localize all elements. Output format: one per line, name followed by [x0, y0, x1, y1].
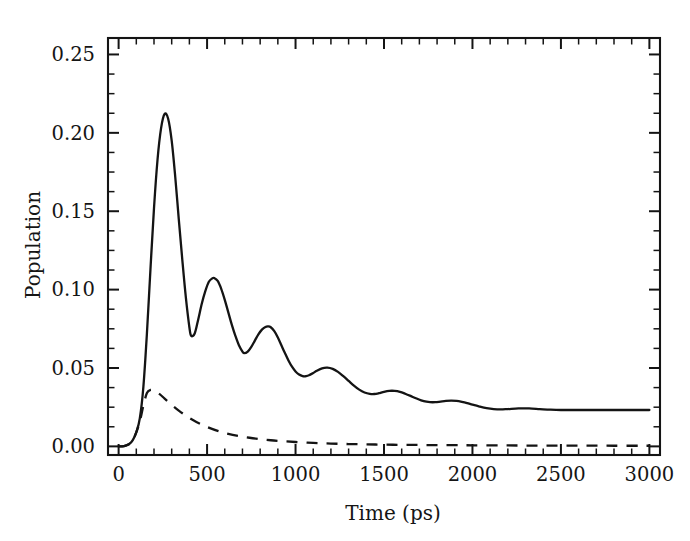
y-axis-tick-labels: 0.000.050.100.150.200.25 — [52, 43, 95, 458]
x-tick-label: 3000 — [625, 463, 675, 486]
y-tick-label: 0.25 — [52, 43, 95, 66]
y-tick-label: 0.15 — [52, 200, 95, 223]
x-tick-label: 1000 — [271, 463, 321, 486]
y-tick-label: 0.20 — [52, 122, 95, 145]
population-vs-time-chart: 050010001500200025003000 0.000.050.100.1… — [0, 0, 690, 541]
x-tick-label: 500 — [188, 463, 225, 486]
solid-population-curve — [119, 113, 650, 446]
y-tick-label: 0.00 — [52, 435, 95, 458]
x-tick-label: 2500 — [536, 463, 586, 486]
y-tick-label: 0.10 — [52, 278, 95, 301]
x-tick-label: 0 — [112, 463, 124, 486]
y-axis-label: Population — [21, 191, 45, 299]
dashed-population-curve — [119, 390, 650, 447]
y-tick-label: 0.05 — [52, 357, 95, 380]
x-axis-tick-labels: 050010001500200025003000 — [112, 463, 674, 486]
figure-container: 050010001500200025003000 0.000.050.100.1… — [0, 0, 690, 541]
x-tick-label: 2000 — [448, 463, 498, 486]
x-axis-label: Time (ps) — [345, 501, 441, 525]
x-tick-label: 1500 — [359, 463, 409, 486]
